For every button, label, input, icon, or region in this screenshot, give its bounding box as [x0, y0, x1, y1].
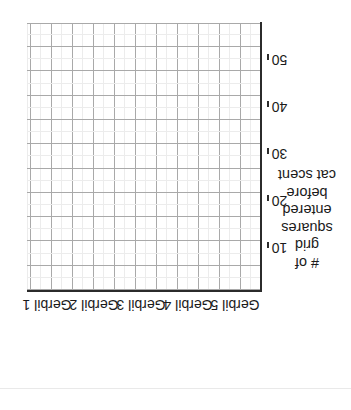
- grid-line-horizontal-major: [27, 23, 262, 24]
- grid-line-vertical-minor: [104, 23, 105, 290]
- grid-line-vertical-minor: [62, 23, 63, 290]
- grid-line-vertical-minor: [188, 23, 189, 290]
- grid-line-vertical-major: [240, 23, 241, 290]
- grid-line-vertical-minor: [41, 23, 42, 290]
- grid-line-vertical-minor: [83, 23, 84, 290]
- sheet-bottom-rule: [0, 388, 351, 389]
- category-label-gerbil-5: Gerbil 5: [200, 298, 270, 312]
- grid-line-vertical-minor: [167, 23, 168, 290]
- grid-line-horizontal-minor: [27, 277, 262, 278]
- grid-line-horizontal-major: [27, 241, 262, 242]
- value-axis-tick-50: [267, 54, 269, 60]
- grid-line-horizontal-major: [27, 95, 262, 96]
- grid-line-vertical-minor: [251, 23, 252, 290]
- value-axis-line: [260, 22, 262, 291]
- grid-line-horizontal-minor: [27, 228, 262, 229]
- grid-line-vertical-minor: [146, 23, 147, 290]
- grid-line-horizontal-major: [27, 216, 262, 217]
- grid-line-vertical-major: [156, 23, 157, 290]
- grid-line-horizontal-minor: [27, 34, 262, 35]
- grid-line-horizontal-major: [27, 168, 262, 169]
- blank-bar-chart-figure: # of grid squares entered before cat sce…: [0, 0, 351, 410]
- grid-line-vertical-major: [51, 23, 52, 290]
- grid-line-vertical-major: [114, 23, 115, 290]
- grid-line-horizontal-minor: [27, 253, 262, 254]
- value-axis-tick-10: [267, 242, 269, 248]
- grid-line-horizontal-minor: [27, 180, 262, 181]
- grid-line-vertical-major: [30, 23, 31, 290]
- value-axis-tick-20: [267, 195, 269, 201]
- grid-line-vertical-major: [93, 23, 94, 290]
- value-axis-tick-label-40: 40: [272, 100, 308, 114]
- grid-line-vertical-minor: [125, 23, 126, 290]
- grid-line-vertical-major: [135, 23, 136, 290]
- value-axis-tick-label-10: 10: [272, 241, 308, 255]
- value-axis-tick-label-30: 30: [272, 147, 308, 161]
- value-axis-title-line-3: squares: [269, 219, 345, 237]
- grid-line-horizontal-major: [27, 119, 262, 120]
- grid-line-vertical-minor: [230, 23, 231, 290]
- grid-line-horizontal-major: [27, 71, 262, 72]
- grid-line-horizontal-minor: [27, 83, 262, 84]
- grid-line-vertical-major: [72, 23, 73, 290]
- grid-line-horizontal-minor: [27, 58, 262, 59]
- grid-line-horizontal-major: [27, 265, 262, 266]
- grid-line-vertical-major: [219, 23, 220, 290]
- grid-line-vertical-minor: [27, 23, 28, 290]
- grid-line-horizontal-major: [27, 143, 262, 144]
- grid-line-vertical-major: [198, 23, 199, 290]
- grid-line-horizontal-minor: [27, 156, 262, 157]
- grid-line-horizontal-major: [27, 46, 262, 47]
- grid-line-horizontal-minor: [27, 107, 262, 108]
- category-axis-line: [27, 290, 262, 292]
- grid-line-horizontal-minor: [27, 131, 262, 132]
- value-axis-tick-label-20: 20: [272, 194, 308, 208]
- grid-line-horizontal-minor: [27, 204, 262, 205]
- value-axis-title-line-6: cat scent: [269, 166, 345, 184]
- grid-line-horizontal-major: [27, 192, 262, 193]
- plot-area: 10 20 30 40 50 Gerbil 1 Gerbil 2 Gerbil …: [27, 23, 262, 290]
- value-axis-title-line-1: # of: [269, 254, 345, 272]
- grid-line-vertical-minor: [209, 23, 210, 290]
- grid-line-vertical-major: [177, 23, 178, 290]
- value-axis-tick-30: [267, 148, 269, 154]
- value-axis-tick-label-50: 50: [272, 53, 308, 67]
- value-axis-tick-40: [267, 101, 269, 107]
